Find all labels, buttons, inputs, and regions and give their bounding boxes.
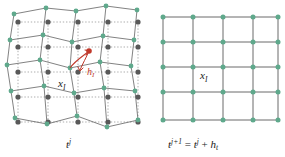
deformed-mesh-nodes xyxy=(5,4,141,130)
right-node-label: xI xyxy=(199,69,208,84)
right-panel-caption: tj+1 = tj + ht xyxy=(168,137,219,152)
deformed-mesh-panel: hI xI tj xyxy=(5,4,141,150)
mesh-deformation-figure: hI xI tj xyxy=(0,0,285,157)
regular-grid-edges xyxy=(163,17,278,120)
regular-grid-nodes xyxy=(161,15,281,123)
displacement-label: hI xyxy=(87,66,95,79)
left-panel-caption: tj xyxy=(66,137,71,150)
displaced-node-marker xyxy=(86,48,92,54)
regular-grid-panel: xI tj+1 = tj + ht xyxy=(161,15,281,153)
deformed-mesh-edges xyxy=(7,6,138,127)
